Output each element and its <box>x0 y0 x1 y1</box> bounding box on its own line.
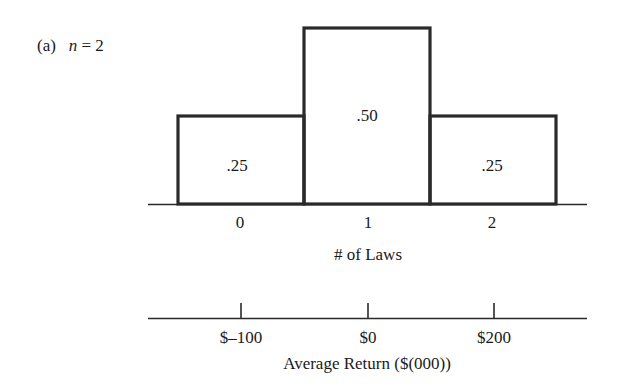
return-tick-label-1: $0 <box>360 328 377 348</box>
bar-value-label-2: .25 <box>481 156 502 176</box>
return-tick-label-0: $–100 <box>220 328 263 348</box>
bar-value-label-0: .25 <box>226 156 247 176</box>
histogram-chart <box>0 0 623 392</box>
category-label-2: 2 <box>488 213 497 233</box>
category-label-1: 1 <box>364 213 373 233</box>
return-tick-label-2: $200 <box>477 328 511 348</box>
x-axis-title-return: Average Return ($(000)) <box>283 354 451 374</box>
category-label-0: 0 <box>236 213 245 233</box>
x-axis-title-laws: # of Laws <box>334 245 402 265</box>
bar-value-label-1: .50 <box>356 106 377 126</box>
